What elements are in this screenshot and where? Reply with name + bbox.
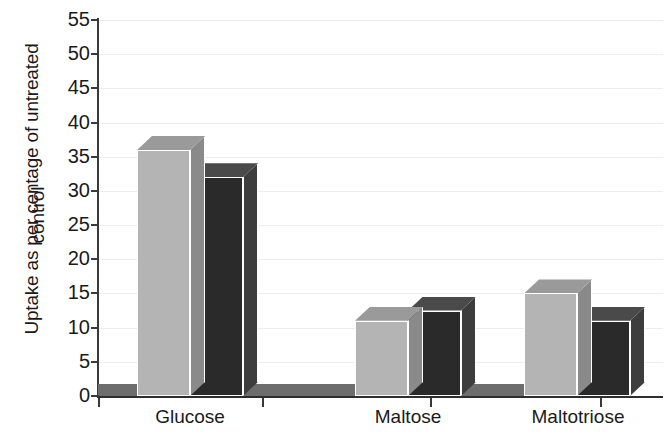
bar-side-face	[243, 163, 258, 396]
gridline	[98, 123, 663, 124]
bar-maltotriose-light-gray-series	[524, 279, 577, 396]
bar-glucose-light-gray-series	[137, 136, 190, 396]
y-tick-label: 50	[50, 43, 90, 63]
bar-side-face	[461, 297, 476, 396]
gridline	[98, 88, 663, 89]
bar-side-face	[630, 307, 645, 396]
bar-front-face	[137, 150, 190, 396]
y-tick-label: 10	[50, 317, 90, 337]
bar-chart: Uptake as per centage of untreated contr…	[0, 0, 669, 443]
y-tick-label: 30	[50, 180, 90, 200]
y-tick-label: 15	[50, 282, 90, 302]
y-tick-label: 0	[50, 385, 90, 405]
y-tick-label: 35	[50, 146, 90, 166]
y-tick-mark	[91, 190, 99, 192]
x-tick-mark	[98, 398, 100, 407]
y-tick-mark	[91, 53, 99, 55]
y-tick-mark	[91, 156, 99, 158]
x-label-glucose: Glucose	[110, 406, 270, 428]
y-axis-tick-labels: 5550454035302520151050	[48, 0, 90, 443]
bar-side-face	[408, 307, 423, 396]
x-axis-line	[97, 396, 663, 398]
y-tick-label: 55	[50, 9, 90, 29]
y-tick-mark	[91, 395, 99, 397]
bar-side-face	[577, 279, 592, 396]
y-axis-line	[97, 18, 99, 398]
y-tick-mark	[91, 258, 99, 260]
y-tick-mark	[91, 292, 99, 294]
y-tick-mark	[91, 122, 99, 124]
bar-side-face	[190, 136, 205, 396]
bar-maltose-light-gray-series	[355, 307, 408, 396]
bar-front-face	[355, 321, 408, 396]
y-axis-title-line2: control	[27, 85, 49, 345]
y-tick-label: 20	[50, 248, 90, 268]
gridline	[98, 20, 663, 21]
x-tick-mark	[600, 398, 602, 407]
x-tick-mark	[262, 398, 264, 407]
y-tick-mark	[91, 224, 99, 226]
y-tick-label: 25	[50, 214, 90, 234]
y-tick-mark	[91, 327, 99, 329]
x-label-maltose: Maltose	[328, 406, 488, 428]
x-tick-mark	[430, 398, 432, 407]
y-tick-mark	[91, 361, 99, 363]
x-label-maltotriose: Maltotriose	[498, 406, 658, 428]
y-tick-label: 45	[50, 77, 90, 97]
y-tick-mark	[91, 19, 99, 21]
bar-front-face	[524, 293, 577, 396]
gridline	[98, 54, 663, 55]
y-tick-label: 40	[50, 112, 90, 132]
y-tick-label: 5	[50, 351, 90, 371]
y-tick-mark	[91, 87, 99, 89]
